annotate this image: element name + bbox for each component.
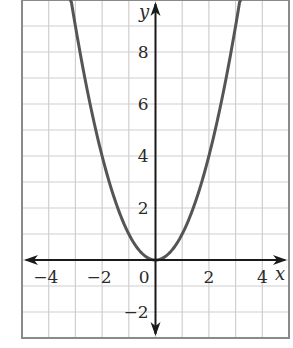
x-tick-label: 2 <box>203 267 214 287</box>
y-tick-label: −2 <box>123 302 148 322</box>
y-tick-label: 8 <box>138 42 149 62</box>
x-axis-label: x <box>275 263 285 284</box>
x-tick-label: 0 <box>139 267 150 287</box>
parabola-chart: −4−2024−22468 x y <box>0 0 293 348</box>
y-tick-label: 6 <box>138 94 149 114</box>
y-tick-label: 2 <box>138 198 149 218</box>
y-axis-label: y <box>138 1 150 22</box>
x-tick-label: 4 <box>257 267 268 287</box>
y-tick-label: 4 <box>138 146 149 166</box>
x-tick-label: −2 <box>87 267 112 287</box>
x-tick-label: −4 <box>33 267 58 287</box>
